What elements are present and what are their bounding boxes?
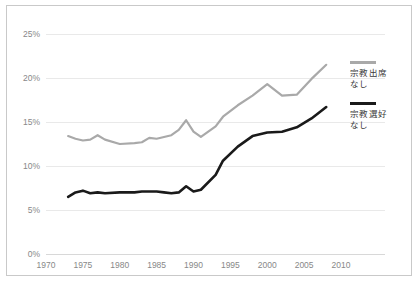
- legend-label-line2: なし: [350, 79, 410, 90]
- x-tick-label: 2000: [258, 260, 277, 270]
- y-tick-label: 0%: [28, 249, 41, 259]
- data-series-lines: [68, 65, 326, 197]
- series-line-no-religious-attendance: [68, 65, 326, 144]
- legend-swatch-black: [350, 102, 376, 105]
- x-axis-tick-labels: 197019751980198519901995200020052010: [37, 260, 351, 270]
- legend-label-line1: 宗教選好: [350, 109, 410, 120]
- x-tick-label: 1980: [110, 260, 129, 270]
- x-tick-label: 2005: [295, 260, 314, 270]
- y-tick-label: 25%: [23, 29, 40, 39]
- x-tick-label: 1995: [221, 260, 240, 270]
- y-tick-label: 15%: [23, 117, 40, 127]
- gridlines: [46, 34, 385, 254]
- chart-card: 0%5%10%15%20%25% 19701975198019851990199…: [6, 5, 412, 276]
- y-tick-label: 20%: [23, 73, 40, 83]
- series-line-no-religious-preference: [68, 107, 326, 197]
- y-tick-label: 10%: [23, 161, 40, 171]
- x-tick-label: 2010: [332, 260, 351, 270]
- x-tick-label: 1985: [147, 260, 166, 270]
- x-tick-label: 1970: [37, 260, 56, 270]
- legend-label-line2: なし: [350, 120, 410, 131]
- chart-legend: 宗教出席 なし 宗教選好 なし: [350, 61, 410, 143]
- y-tick-label: 5%: [28, 205, 41, 215]
- legend-entry-no-religious-preference: 宗教選好 なし: [350, 102, 410, 130]
- x-tick-label: 1975: [73, 260, 92, 270]
- legend-swatch-grey: [350, 61, 376, 64]
- legend-label-line1: 宗教出席: [350, 68, 410, 79]
- x-tick-label: 1990: [184, 260, 203, 270]
- y-axis-tick-labels: 0%5%10%15%20%25%: [23, 29, 40, 259]
- legend-entry-no-religious-attendance: 宗教出席 なし: [350, 61, 410, 89]
